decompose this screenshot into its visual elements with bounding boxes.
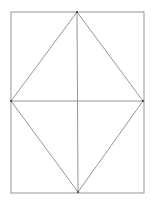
diagram-canvas <box>0 0 152 203</box>
vertical-midline <box>77 12 78 192</box>
vertex-right <box>142 100 144 102</box>
vertex-left <box>10 100 12 102</box>
vertex-bottom <box>77 191 79 193</box>
vertex-top <box>76 11 78 13</box>
